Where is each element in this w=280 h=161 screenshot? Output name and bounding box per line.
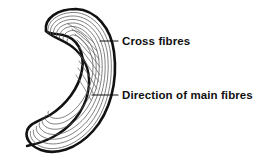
label-direction-of-main-fibres: Direction of main fibres [122,89,253,101]
figure-container: Cross fibres Direction of main fibres [0,0,280,161]
fibre-structure-diagram: Cross fibres Direction of main fibres [0,0,280,161]
label-cross-fibres: Cross fibres [122,35,190,47]
